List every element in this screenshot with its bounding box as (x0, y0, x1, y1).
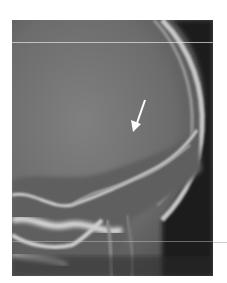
scan-artifact-line (12, 42, 213, 43)
bottom-shadow (12, 256, 213, 276)
scan-artifact-line (213, 242, 227, 243)
scan-artifact-line (12, 241, 213, 242)
xray-image (12, 20, 213, 276)
skull-radiograph (12, 20, 213, 276)
